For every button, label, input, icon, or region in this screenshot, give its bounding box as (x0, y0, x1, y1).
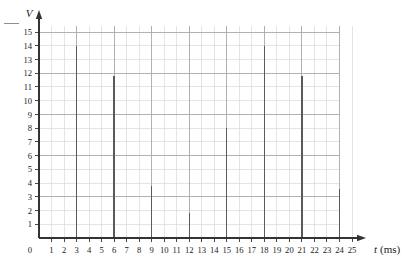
y-tick-label: 7 (28, 137, 33, 147)
x-tick-label: 19 (273, 245, 282, 255)
x-tick-label: 20 (285, 245, 294, 255)
impulse-chart: 0123456789101112131415161718192021222324… (0, 0, 414, 257)
x-axis-label-unit: (ms) (380, 243, 401, 256)
x-axis-tick-labels: 0123456789101112131415161718192021222324… (37, 245, 356, 255)
y-tick-label: 12 (23, 68, 32, 78)
x-tick-label: 6 (112, 245, 117, 255)
x-tick-label: 5 (99, 245, 103, 255)
x-tick-label: 14 (210, 245, 219, 255)
axis-lines (36, 10, 366, 241)
x-tick-label: 18 (260, 245, 269, 255)
x-tick-label: 23 (323, 245, 332, 255)
x-tick-label: 8 (137, 245, 141, 255)
x-tick-label: 9 (150, 245, 154, 255)
plot-area: 0123456789101112131415161718192021222324… (0, 0, 414, 257)
y-tick-label: 8 (28, 123, 32, 133)
y-tick-label: 10 (23, 96, 32, 106)
y-axis-arrowhead (36, 10, 42, 19)
y-tick-label: 9 (28, 110, 32, 120)
x-tick-label: 11 (173, 245, 181, 255)
x-tick-label: 25 (348, 245, 357, 255)
x-tick-label: 21 (298, 245, 307, 255)
x-tick-label: 7 (124, 245, 129, 255)
x-tick-label: 13 (197, 245, 206, 255)
x-tick-label: 15 (223, 245, 232, 255)
x-tick-label: 1 (49, 245, 53, 255)
x-tick-label: 22 (310, 245, 319, 255)
x-tick-label: 2 (62, 245, 66, 255)
y-tick-label: 2 (28, 206, 32, 216)
origin-label: 0 (28, 245, 32, 255)
x-tick-label: 3 (74, 245, 78, 255)
y-axis-tick-labels: 1234567891011121314150 (23, 27, 32, 255)
y-tick-label: 3 (28, 192, 32, 202)
y-tick-label: 4 (28, 178, 33, 188)
x-axis-arrowhead (357, 235, 366, 241)
x-tick-label: 17 (248, 245, 257, 255)
x-axis-label-symbol: t (374, 243, 378, 255)
y-tick-label: 15 (23, 27, 32, 37)
x-tick-label: 24 (335, 245, 344, 255)
x-tick-label: 16 (235, 245, 244, 255)
y-tick-label: 11 (24, 82, 32, 92)
x-tick-label: 10 (160, 245, 169, 255)
y-tick-label: 13 (23, 55, 32, 65)
y-tick-label: 6 (28, 151, 33, 161)
y-axis-label: V (26, 7, 34, 19)
grid-minor-lines (39, 26, 352, 238)
x-axis-ticks (52, 238, 352, 242)
figure-container: 0123456789101112131415161718192021222324… (0, 0, 414, 257)
x-tick-label: 4 (87, 245, 92, 255)
x-tick-label: 12 (185, 245, 194, 255)
grid-major-lines (39, 26, 340, 238)
y-tick-label: 14 (23, 41, 32, 51)
y-tick-label: 1 (28, 219, 32, 229)
y-tick-label: 5 (28, 164, 32, 174)
